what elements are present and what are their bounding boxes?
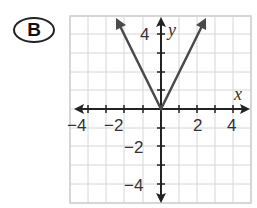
x-tick-2: 2 (193, 116, 202, 135)
y-axis-label: y (166, 20, 176, 40)
x-tick-4: 4 (227, 116, 236, 135)
x-tick-neg2: −2 (104, 116, 123, 135)
x-axis-label: x (233, 84, 242, 104)
y-tick-neg4: −4 (124, 176, 143, 195)
x-tick-neg4: −4 (67, 116, 86, 135)
y-tick-neg2: −2 (124, 138, 143, 157)
y-tick-4: 4 (140, 25, 149, 44)
coordinate-plane: y x 4 −2 −4 −4 −2 2 4 (0, 0, 257, 208)
